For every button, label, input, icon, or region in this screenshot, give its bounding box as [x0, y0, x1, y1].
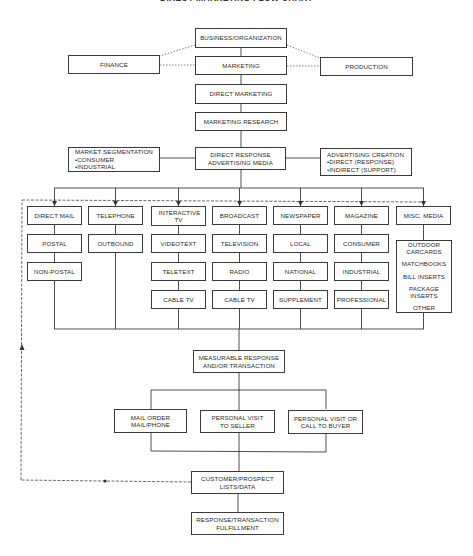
media-subtype-label: SUPPLEMENT: [279, 296, 322, 304]
channel-line2: CALL TO BUYER: [301, 422, 351, 429]
misc-media-list-box: OUTDOOR CARCARDSMATCHBOOKSBILL INSERTSPA…: [396, 240, 452, 313]
marketing-label: MARKETING: [222, 62, 260, 70]
channels-bottom-bus: [151, 451, 326, 452]
production-box: PRODUCTION: [320, 57, 413, 76]
feedback-junction-dot: [103, 479, 106, 482]
media-subtype-label: TELEVISION: [221, 240, 258, 248]
media-subtype-label: NATIONAL: [285, 268, 316, 276]
media-interactive-tv-box: INTERACTIVE TV: [151, 206, 206, 226]
response-line2: AND/OR TRANSACTION: [203, 362, 275, 369]
media-type-label: INTERACTIVE TV: [159, 209, 199, 224]
business-organization-box: BUSINESS/ORGANIZATION: [195, 28, 287, 48]
segmentation-item: INDUSTRIAL: [75, 163, 115, 170]
channel-visit-buyer-box: PERSONAL VISIT OR CALL TO BUYER: [288, 410, 363, 434]
channel-line2: MAIL/PHONE: [131, 421, 170, 428]
media-subtype-label: PROFESSIONAL: [337, 296, 386, 304]
media-subtype-box: RADIO: [212, 262, 267, 281]
production-label: PRODUCTION: [345, 63, 388, 71]
media-subtype-label: OUTBOUND: [97, 240, 133, 248]
channel-line2: TO SELLER: [220, 422, 255, 429]
media-subtype-box: POSTAL: [27, 234, 82, 253]
media-type-label: NEWSPAPER: [281, 212, 321, 220]
media-misc-media-box: MISC. MEDIA: [396, 206, 451, 225]
media-subtype-label: INDUSTRIAL: [343, 268, 381, 276]
advertising-creation-title: ADVERTISING CREATION: [327, 151, 404, 158]
finance-label: FINANCE: [100, 61, 128, 69]
fulfillment-line2: FULFILLMENT: [216, 524, 259, 531]
media-subtype-box: LOCAL: [273, 234, 328, 253]
media-subtype-box: CONSUMER: [334, 234, 389, 253]
market-segmentation-box: MARKET SEGMENTATION CONSUMER INDUSTRIAL: [68, 147, 160, 172]
measurable-response-box: MEASURABLE RESPONSE AND/OR TRANSACTION: [193, 350, 285, 373]
creation-item: INDIRECT (SUPPORT): [327, 166, 396, 173]
media-subtype-box: OUTBOUND: [88, 234, 143, 253]
media-subtype-label: RADIO: [229, 268, 249, 276]
direct-marketing-box: DIRECT MARKETING: [195, 84, 287, 104]
media-subtype-label: POSTAL: [42, 240, 67, 248]
media-subtype-box: PROFESSIONAL: [334, 290, 389, 309]
media-subtype-label: CABLE TV: [224, 296, 255, 304]
direct-marketing-label: DIRECT MARKETING: [209, 90, 272, 98]
finance-box: FINANCE: [68, 55, 160, 74]
marketing-box: MARKETING: [195, 56, 287, 75]
media-type-label: BROADCAST: [220, 212, 259, 220]
media-subtype-box: CABLE TV: [151, 290, 206, 309]
marketing-research-label: MARKETING RESEARCH: [204, 118, 279, 126]
media-subtype-label: VIDEOTEXT: [161, 240, 197, 248]
direct-response-line1: DIRECT RESPONSE: [210, 151, 271, 158]
media-newspaper-box: NEWSPAPER: [273, 206, 328, 225]
media-subtype-box: NON-POSTAL: [27, 262, 82, 281]
dotted-business-finance: [160, 45, 195, 56]
misc-media-item: OTHER: [413, 304, 435, 312]
media-subtype-box: INDUSTRIAL: [334, 262, 389, 281]
media-subtype-box: TELEVISION: [212, 234, 267, 253]
fulfillment-box: RESPONSE/TRANSACTION FULFILLMENT: [191, 512, 284, 535]
channel-line1: MAIL ORDER: [131, 414, 170, 421]
media-direct-mail-box: DIRECT MAIL: [27, 206, 82, 225]
advertising-creation-box: ADVERTISING CREATION DIRECT (RESPONSE) I…: [320, 148, 412, 176]
media-subtype-box: NATIONAL: [273, 262, 328, 281]
misc-media-item: OUTDOOR CARCARDS: [404, 241, 444, 256]
channel-line1: PERSONAL VISIT OR: [294, 415, 357, 422]
misc-media-item: MATCHBOOKS: [402, 260, 447, 268]
channel-line1: PERSONAL VISIT: [211, 414, 263, 421]
customer-lists-box: CUSTOMER/PROSPECT LISTS/DATA: [191, 471, 284, 494]
media-subtype-label: TELETEXT: [162, 268, 194, 276]
marketing-research-box: MARKETING RESEARCH: [195, 112, 287, 131]
media-type-label: DIRECT MAIL: [34, 212, 74, 220]
market-segmentation-title: MARKET SEGMENTATION: [75, 148, 153, 155]
media-subtype-box: VIDEOTEXT: [151, 234, 206, 253]
media-subtype-label: NON-POSTAL: [34, 268, 75, 276]
media-subtype-box: SUPPLEMENT: [273, 290, 328, 309]
business-organization-label: BUSINESS/ORGANIZATION: [200, 34, 282, 42]
media-type-label: MAGAZINE: [345, 212, 378, 220]
creation-item: DIRECT (RESPONSE): [327, 158, 394, 165]
feedback-up-arrow: [20, 344, 25, 350]
direct-response-media-box: DIRECT RESPONSE ADVERTISING MEDIA: [195, 147, 286, 170]
media-subtype-label: LOCAL: [290, 240, 311, 248]
customer-lists-line2: LISTS/DATA: [220, 483, 256, 490]
media-telephone-box: TELEPHONE: [88, 206, 143, 225]
media-type-label: TELEPHONE: [96, 212, 134, 220]
media-subtype-label: CABLE TV: [163, 296, 194, 304]
direct-response-line2: ADVERTISING MEDIA: [208, 159, 273, 166]
media-magazine-box: MAGAZINE: [334, 206, 389, 225]
channel-mail-order-box: MAIL ORDER MAIL/PHONE: [114, 409, 187, 433]
channel-visit-seller-box: PERSONAL VISIT TO SELLER: [200, 410, 275, 433]
feedback-line-left: [21, 200, 22, 480]
dotted-business-production: [287, 45, 320, 58]
media-subtype-box: TELETEXT: [151, 262, 206, 281]
fulfillment-line1: RESPONSE/TRANSACTION: [196, 516, 278, 523]
customer-lists-line1: CUSTOMER/PROSPECT: [201, 475, 274, 482]
response-line1: MEASURABLE RESPONSE: [199, 354, 279, 361]
misc-media-item: PACKAGE INSERTS: [404, 285, 444, 300]
segmentation-item: CONSUMER: [75, 156, 114, 163]
misc-media-item: BILL INSERTS: [403, 273, 445, 281]
media-subtype-label: CONSUMER: [343, 240, 380, 248]
media-broadcast-box: BROADCAST: [212, 206, 267, 225]
media-subtype-box: CABLE TV: [212, 290, 267, 309]
media-type-label: MISC. MEDIA: [404, 212, 444, 220]
